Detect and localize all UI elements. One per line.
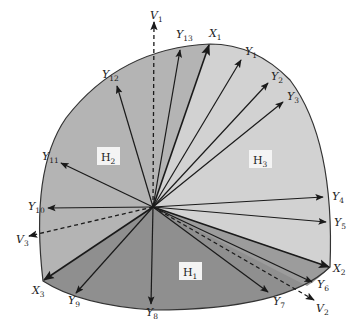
label-y4: Y4: [332, 190, 344, 205]
label-y1: Y1: [245, 45, 257, 60]
label-y6: Y6: [317, 278, 329, 293]
region-label-h3: H3: [249, 150, 272, 169]
label-v3: V3: [16, 233, 29, 248]
label-v1: V1: [150, 9, 163, 24]
label-y13: Y13: [176, 28, 193, 43]
label-y7: Y7: [273, 295, 285, 310]
region-label-h1: H1: [179, 262, 202, 281]
label-x3: X3: [31, 284, 45, 299]
label-x2: X2: [332, 262, 346, 277]
label-v2: V2: [316, 302, 329, 317]
label-y5: Y5: [334, 216, 346, 231]
region-label-h2: H2: [97, 147, 120, 166]
cone-diagram: H2 H3 H1 V1 V2 V3 X1 X2 X3 Y1 Y2 Y3 Y4 Y…: [0, 0, 360, 334]
label-x1: X1: [208, 27, 222, 42]
label-y12: Y12: [102, 68, 119, 83]
